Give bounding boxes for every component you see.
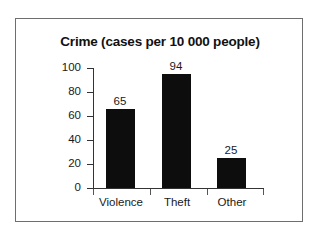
x-tick-boundary-0: [93, 189, 94, 195]
y-tick-label-20: 20: [33, 158, 81, 169]
y-tick-label-80: 80: [33, 86, 81, 97]
bar-violence: [106, 109, 135, 188]
chart-figure: Crime (cases per 10 000 people) 0 20 40 …: [15, 18, 303, 222]
bar-value-other: 25: [208, 144, 254, 156]
x-tick-boundary-1: [150, 189, 151, 195]
bar-other: [217, 158, 246, 188]
x-axis-line: [93, 188, 264, 189]
y-tick-label-0: 0: [33, 182, 81, 193]
y-tick-100: [87, 68, 94, 69]
x-tick-boundary-3: [263, 189, 264, 195]
plot-area: 0 20 40 60 80 100 65 94 25 Violence Thef…: [16, 19, 304, 223]
bar-value-violence: 65: [97, 95, 143, 107]
bar-value-theft: 94: [153, 60, 199, 72]
y-axis-line: [93, 68, 94, 189]
x-tick-boundary-2: [207, 189, 208, 195]
y-tick-label-40: 40: [33, 134, 81, 145]
y-tick-80: [87, 92, 94, 93]
y-tick-60: [87, 116, 94, 117]
y-tick-20: [87, 164, 94, 165]
y-tick-40: [87, 140, 94, 141]
x-label-violence: Violence: [89, 196, 153, 209]
x-label-other: Other: [200, 196, 264, 209]
y-tick-label-100: 100: [33, 62, 81, 73]
bar-theft: [162, 74, 191, 188]
y-tick-label-60: 60: [33, 110, 81, 121]
